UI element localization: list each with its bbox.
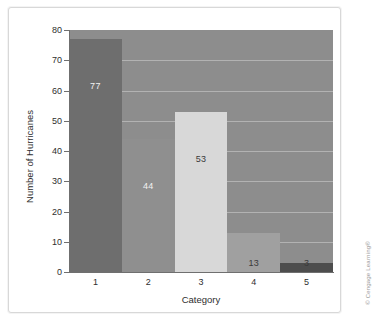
y-tick-mark [64, 91, 69, 92]
y-tick-label: 30 [38, 176, 62, 186]
y-tick-mark [64, 151, 69, 152]
bar [175, 112, 228, 272]
bar [122, 139, 175, 272]
x-tick-label: 1 [75, 277, 115, 287]
y-tick-label: 80 [38, 25, 62, 35]
x-axis-title: Category [69, 294, 333, 305]
x-tick-label: 5 [287, 277, 327, 287]
bar [69, 39, 122, 272]
bar-value-label: 53 [175, 154, 228, 164]
y-tick-mark [64, 60, 69, 61]
y-tick-mark [64, 212, 69, 213]
copyright-credit: © Cengage Learning® [365, 218, 371, 328]
y-tick-mark [64, 181, 69, 182]
bar-value-label: 77 [69, 81, 122, 91]
bar-chart: 774453133 01020304050607080 12345 Catego… [0, 0, 377, 329]
y-tick-label: 0 [38, 267, 62, 277]
x-tick-label: 2 [128, 277, 168, 287]
y-axis-line [69, 30, 70, 273]
x-tick-label: 4 [234, 277, 274, 287]
y-tick-label: 40 [38, 146, 62, 156]
y-tick-label: 50 [38, 116, 62, 126]
bar-value-label: 3 [280, 258, 333, 268]
bar-value-label: 13 [227, 258, 280, 268]
y-tick-mark [64, 121, 69, 122]
plot-area: 774453133 [69, 30, 333, 272]
y-tick-label: 70 [38, 55, 62, 65]
y-tick-label: 60 [38, 86, 62, 96]
y-tick-label: 10 [38, 237, 62, 247]
bar-value-label: 44 [122, 181, 175, 191]
y-tick-mark [64, 242, 69, 243]
y-tick-mark [64, 30, 69, 31]
y-tick-label: 20 [38, 207, 62, 217]
x-tick-label: 3 [181, 277, 221, 287]
y-tick-mark [64, 272, 69, 273]
y-axis-title: Number of Hurricanes [24, 87, 35, 227]
x-axis-line [69, 272, 334, 273]
